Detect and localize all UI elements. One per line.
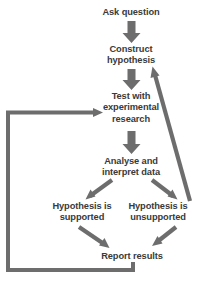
node-ask-question: Ask question xyxy=(76,7,186,18)
flowchart-diagram: Ask question Construct hypothesis Test w… xyxy=(0,0,209,286)
edge-analyse-to-unsupported xyxy=(152,180,178,200)
node-test-with-experimental-research: Test with experimental research xyxy=(76,91,186,125)
edge-unsupported-to-report xyxy=(152,227,176,246)
node-hypothesis-is-unsupported: Hypothesis is unsupported xyxy=(108,201,208,224)
edge-analyse-to-supported xyxy=(86,180,113,200)
flowchart-connectors xyxy=(0,0,209,286)
edge-construct-to-test xyxy=(123,69,141,90)
node-construct-hypothesis: Construct hypothesis xyxy=(76,44,186,67)
node-report-results: Report results xyxy=(77,251,187,262)
node-analyse-and-interpret-data: Analyse and interpret data xyxy=(76,156,186,179)
edge-test-to-analyse xyxy=(123,131,141,154)
edge-report-to-test xyxy=(8,108,133,270)
edge-ask-to-construct xyxy=(123,21,141,43)
edge-supported-to-report xyxy=(79,227,110,248)
